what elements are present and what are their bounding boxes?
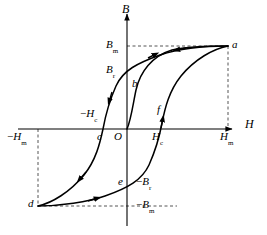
axis-label-h: H bbox=[245, 118, 254, 130]
label-h-coercive-positive-text: H bbox=[152, 130, 160, 142]
label-b-max-positive-text: B bbox=[106, 38, 113, 50]
label-h-max-positive-subscript: m bbox=[228, 139, 233, 147]
label-b-remanence-positive-text: B bbox=[106, 63, 113, 75]
dashed-guide-lines bbox=[38, 46, 228, 206]
label-h-coercive-positive: Hc bbox=[152, 131, 163, 145]
label-b-remanence-negative-subscript: r bbox=[149, 184, 151, 192]
point-label-b: b bbox=[132, 78, 138, 89]
direction-arrow-descending-lower bbox=[79, 172, 86, 180]
label-b-remanence-negative-text: B bbox=[142, 175, 149, 187]
label-b-max-negative-text: B bbox=[142, 198, 149, 210]
direction-arrow-ascending-lower bbox=[88, 198, 98, 201]
point-label-e: e bbox=[118, 176, 123, 187]
point-label-a: a bbox=[232, 39, 238, 50]
point-label-c: c bbox=[97, 131, 102, 142]
label-h-coercive-positive-subscript: c bbox=[160, 139, 163, 147]
axis-label-b: B bbox=[122, 3, 129, 15]
label-b-remanence-negative: −Br bbox=[136, 176, 151, 190]
label-h-coercive-negative: −Hc bbox=[80, 108, 97, 122]
hysteresis-loop-figure: B H O Bm Br −Br −Bm −Hc Hc Hm −Hm a b c … bbox=[0, 0, 267, 235]
label-b-max-negative-subscript: m bbox=[149, 207, 154, 215]
descending-branch-curve bbox=[38, 46, 228, 206]
label-h-max-negative-subscript: m bbox=[21, 139, 26, 147]
direction-arrow-ascending-right bbox=[161, 118, 163, 128]
origin-label-o: O bbox=[114, 131, 122, 142]
initial-magnetization-curve bbox=[127, 46, 228, 129]
label-b-remanence-positive-subscript: r bbox=[113, 72, 115, 80]
label-b-remanence-positive: Br bbox=[106, 64, 115, 78]
label-h-max-negative: −Hm bbox=[7, 131, 27, 145]
label-h-max-positive: Hm bbox=[220, 131, 233, 145]
hysteresis-curves bbox=[38, 46, 228, 206]
point-label-f: f bbox=[157, 104, 160, 115]
label-b-max-positive: Bm bbox=[106, 39, 118, 53]
ascending-branch-curve bbox=[38, 46, 228, 206]
label-h-coercive-negative-subscript: c bbox=[94, 116, 97, 124]
hysteresis-diagram-canvas bbox=[0, 0, 267, 235]
label-h-max-positive-text: H bbox=[220, 130, 228, 142]
label-b-max-negative: −Bm bbox=[136, 199, 154, 213]
curve-direction-arrows bbox=[79, 48, 186, 201]
point-label-d: d bbox=[28, 198, 34, 209]
label-b-max-positive-subscript: m bbox=[113, 47, 118, 55]
label-h-max-negative-text: H bbox=[13, 130, 21, 142]
label-h-coercive-negative-text: H bbox=[86, 107, 94, 119]
